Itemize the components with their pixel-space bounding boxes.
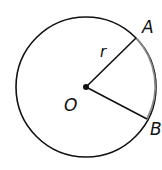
label-point-b: B xyxy=(150,119,162,139)
center-point xyxy=(83,84,89,90)
label-radius-r: r xyxy=(100,43,107,61)
radius-ob xyxy=(86,87,147,119)
label-point-a: A xyxy=(141,17,154,37)
label-center-o: O xyxy=(64,95,77,115)
arc-ab xyxy=(136,38,155,119)
radius-oa xyxy=(86,38,136,87)
circle-diagram: O A B r xyxy=(0,0,162,170)
